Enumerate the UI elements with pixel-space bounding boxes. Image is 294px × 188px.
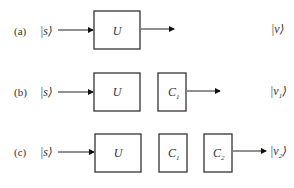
box-label: U	[114, 146, 124, 160]
box-label: U	[113, 85, 123, 99]
row-label: (a)	[14, 25, 27, 38]
circuit-diagram: (a) |s⟩ U |v⟩ (b) |s⟩ U C1 |v1⟩ (c) |s⟩ …	[0, 0, 294, 188]
row-a: (a) |s⟩ U |v⟩	[14, 11, 284, 49]
output-ket: |v⟩	[271, 22, 284, 36]
row-label: (c)	[14, 146, 27, 159]
box-label: U	[113, 24, 123, 38]
input-ket: |s⟩	[40, 85, 53, 99]
input-ket: |s⟩	[40, 24, 53, 38]
output-ket: |v1⟩	[270, 84, 287, 100]
row-b: (b) |s⟩ U C1 |v1⟩	[14, 73, 287, 111]
row-c: (c) |s⟩ U C1 C2 |v2⟩	[14, 134, 287, 172]
row-label: (b)	[14, 86, 27, 99]
output-ket: |v2⟩	[270, 144, 287, 160]
input-ket: |s⟩	[40, 145, 53, 159]
